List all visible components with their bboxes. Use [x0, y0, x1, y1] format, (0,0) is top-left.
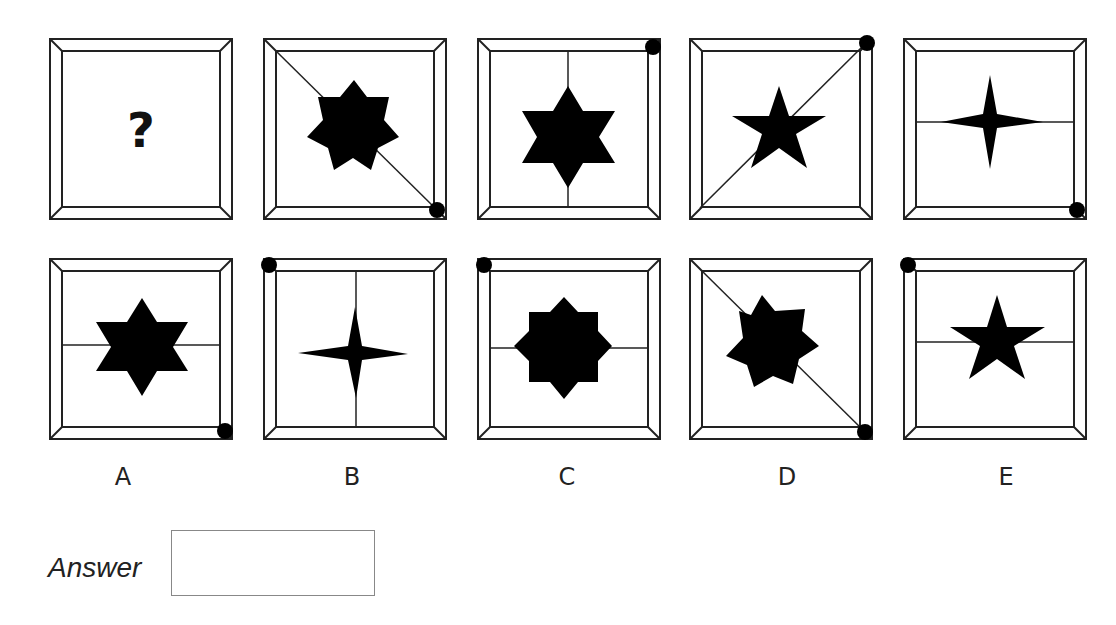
option-b[interactable] — [263, 258, 447, 440]
option-label-d[interactable]: D — [695, 463, 879, 491]
option-e[interactable] — [903, 258, 1087, 440]
corner-dot-icon — [645, 39, 661, 55]
option-d[interactable] — [689, 258, 873, 440]
corner-dot-icon — [1069, 202, 1085, 218]
sequence-cell-4 — [903, 38, 1087, 220]
four-point-star-icon — [941, 75, 1043, 169]
question-cell: ? — [49, 38, 233, 220]
eight-point-star-icon — [307, 80, 399, 170]
sequence-cell-2 — [477, 38, 661, 220]
six-point-star-icon — [522, 86, 615, 188]
corner-dot-icon — [429, 202, 445, 218]
question-mark-icon: ? — [127, 102, 155, 158]
corner-dot-icon — [900, 257, 916, 273]
sequence-cell-1 — [263, 38, 447, 220]
option-label-e[interactable]: E — [914, 463, 1098, 491]
option-label-b[interactable]: B — [260, 463, 444, 491]
corner-dot-icon — [859, 35, 875, 51]
sequence-cell-3 — [689, 38, 873, 220]
option-label-c[interactable]: C — [475, 463, 659, 491]
answer-label: Answer — [48, 552, 141, 584]
corner-dot-icon — [476, 257, 492, 273]
option-a[interactable] — [49, 258, 233, 440]
four-point-star-icon — [298, 307, 408, 398]
six-point-star-icon — [96, 298, 188, 396]
eight-point-star-icon — [514, 297, 612, 399]
frame: ? — [49, 38, 233, 220]
corner-dot-icon — [217, 423, 233, 439]
option-label-a[interactable]: A — [31, 463, 215, 491]
five-point-star-icon — [950, 295, 1045, 379]
option-c[interactable] — [477, 258, 661, 440]
answer-input[interactable] — [171, 530, 375, 596]
five-point-star-icon — [732, 86, 826, 168]
corner-dot-icon — [261, 257, 277, 273]
corner-dot-icon — [857, 424, 873, 440]
